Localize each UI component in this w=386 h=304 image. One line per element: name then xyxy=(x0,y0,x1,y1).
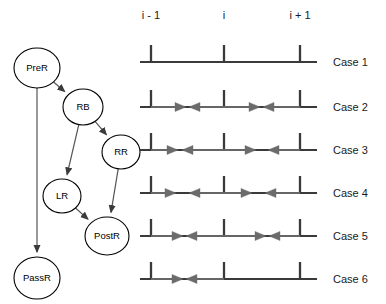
figure-canvas: PreRRBRRLRPostRPassR i - 1ii + 1 Case 1C… xyxy=(0,0,386,304)
graph-node-prer[interactable]: PreR xyxy=(14,48,60,88)
graph-node-rr[interactable]: RR xyxy=(102,135,140,169)
axis-tick-label-0: i - 1 xyxy=(142,9,160,21)
axis-tick-label-2: i + 1 xyxy=(289,9,310,21)
case-label-4: Case 4 xyxy=(333,187,368,199)
graph-node-lr[interactable]: LR xyxy=(43,179,81,213)
case-label-3: Case 3 xyxy=(333,144,368,156)
node-label-rr: RR xyxy=(114,146,128,157)
node-label-passr: PassR xyxy=(23,272,51,283)
graph-node-rb[interactable]: RB xyxy=(63,89,103,125)
case-label-1: Case 1 xyxy=(333,56,368,68)
node-label-rb: RB xyxy=(76,101,89,112)
node-label-lr: LR xyxy=(56,190,68,201)
case-label-2: Case 2 xyxy=(333,101,368,113)
case-label-6: Case 6 xyxy=(333,273,368,285)
axis-tick-label-1: i xyxy=(223,9,225,21)
node-label-postr: PostR xyxy=(94,230,120,241)
case-label-5: Case 5 xyxy=(333,230,368,242)
node-label-prer: PreR xyxy=(26,62,48,73)
graph-node-passr[interactable]: PassR xyxy=(14,257,60,299)
graph-node-postr[interactable]: PostR xyxy=(85,217,129,255)
